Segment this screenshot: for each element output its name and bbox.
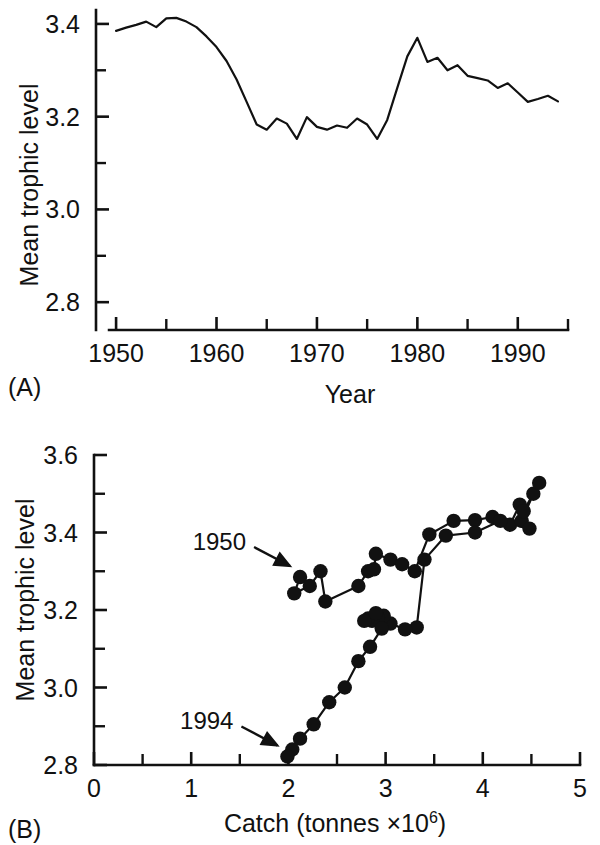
data-point bbox=[306, 717, 320, 731]
data-point bbox=[369, 606, 383, 620]
x-tick-label: 5 bbox=[573, 774, 587, 802]
panel-label-a: (A) bbox=[8, 373, 41, 401]
data-point bbox=[369, 547, 383, 561]
panel-b: 2.83.03.23.43.6 012345 19501994 Mean tro… bbox=[0, 420, 600, 845]
data-points-group bbox=[280, 476, 546, 764]
data-point bbox=[338, 680, 352, 694]
annotations-group: 19501994 bbox=[180, 528, 290, 745]
data-point bbox=[422, 527, 436, 541]
annotation-label-1950: 1950 bbox=[193, 528, 246, 555]
panel-a: 2.83.03.23.4 19501960197019801990 Mean t… bbox=[0, 0, 600, 420]
data-point bbox=[322, 695, 336, 709]
x-tick-labels-b: 012345 bbox=[87, 774, 587, 802]
annotation-label-1994: 1994 bbox=[180, 707, 233, 734]
data-point bbox=[398, 622, 412, 636]
data-point bbox=[439, 528, 453, 542]
data-point bbox=[522, 521, 536, 535]
data-point bbox=[493, 514, 507, 528]
y-tick-label: 3.2 bbox=[45, 103, 80, 131]
panel-a-svg: 2.83.03.23.4 19501960197019801990 Mean t… bbox=[0, 0, 600, 420]
x-tick-label: 1980 bbox=[390, 339, 446, 367]
x-tick-label: 1990 bbox=[490, 339, 546, 367]
data-point bbox=[516, 504, 530, 518]
panel-a-axes bbox=[96, 10, 568, 330]
x-tick-label: 1970 bbox=[289, 339, 345, 367]
data-point bbox=[395, 557, 409, 571]
trophic-level-timeseries-line bbox=[116, 18, 558, 139]
x-tick-label: 2 bbox=[281, 774, 295, 802]
data-point bbox=[303, 579, 317, 593]
y-tick-label: 3.4 bbox=[43, 519, 78, 547]
data-point bbox=[446, 514, 460, 528]
x-tick-label: 4 bbox=[476, 774, 490, 802]
data-point bbox=[313, 564, 327, 578]
y-axis-title-b: Mean trophic level bbox=[11, 499, 39, 702]
y-ticks-b bbox=[94, 455, 107, 765]
x-tick-label: 3 bbox=[379, 774, 393, 802]
x-axis-title-b: Catch (tonnes ×106) bbox=[224, 809, 446, 837]
y-ticks-a bbox=[96, 24, 109, 302]
data-point bbox=[363, 640, 377, 654]
annotation-arrow-head bbox=[274, 553, 290, 566]
data-point bbox=[351, 654, 365, 668]
annotation-arrow-head bbox=[261, 733, 277, 746]
data-point bbox=[318, 594, 332, 608]
data-point bbox=[375, 621, 389, 635]
x-axis-title-close: ) bbox=[438, 809, 446, 837]
x-tick-label: 1960 bbox=[189, 339, 245, 367]
y-tick-labels-a: 2.83.03.23.4 bbox=[45, 10, 80, 316]
y-axis-title-a: Mean trophic level bbox=[15, 84, 43, 287]
x-axis-title-exponent: 6 bbox=[429, 809, 438, 826]
x-ticks-b bbox=[94, 752, 580, 765]
y-tick-label: 2.8 bbox=[45, 288, 80, 316]
x-tick-labels-a: 19501960197019801990 bbox=[88, 339, 545, 367]
y-tick-label: 3.2 bbox=[43, 596, 78, 624]
data-point bbox=[287, 586, 301, 600]
panel-b-svg: 2.83.03.23.43.6 012345 19501994 Mean tro… bbox=[0, 420, 600, 845]
y-tick-label: 3.4 bbox=[45, 10, 80, 38]
data-point bbox=[280, 749, 294, 763]
data-point bbox=[532, 476, 546, 490]
data-point bbox=[417, 552, 431, 566]
y-tick-label: 2.8 bbox=[43, 751, 78, 779]
data-point bbox=[367, 562, 381, 576]
y-tick-label: 3.6 bbox=[43, 441, 78, 469]
x-tick-label: 0 bbox=[87, 774, 101, 802]
x-axis-title-a: Year bbox=[325, 380, 376, 408]
x-ticks-a bbox=[116, 317, 568, 330]
y-tick-label: 3.0 bbox=[45, 195, 80, 223]
y-tick-labels-b: 2.83.03.23.43.6 bbox=[43, 441, 78, 779]
x-tick-label: 1950 bbox=[88, 339, 144, 367]
panel-label-b: (B) bbox=[8, 815, 41, 843]
x-tick-label: 1 bbox=[184, 774, 198, 802]
data-point bbox=[468, 513, 482, 527]
panel-b-axes bbox=[94, 455, 580, 765]
data-point bbox=[351, 579, 365, 593]
x-axis-title-base: Catch (tonnes ×10 bbox=[224, 809, 429, 837]
data-point bbox=[468, 525, 482, 539]
data-point bbox=[408, 564, 422, 578]
y-tick-label: 3.0 bbox=[43, 674, 78, 702]
